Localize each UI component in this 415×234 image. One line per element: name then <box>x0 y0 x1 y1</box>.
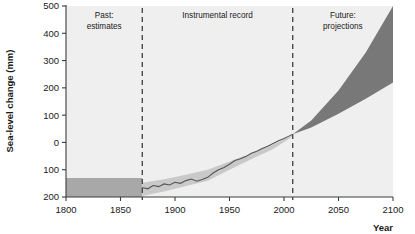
zone-label-instrumental-record: Instrumental record <box>182 11 253 20</box>
x-tick-label: 1850 <box>110 204 131 215</box>
x-tick-label: 2100 <box>382 204 403 215</box>
x-axis-ticks: 1800185019001950200020502100 <box>55 197 403 215</box>
x-axis-title: Year <box>373 222 393 233</box>
y-tick-label: 100 <box>43 110 59 121</box>
y-tick-label: 500 <box>43 0 59 11</box>
y-tick-label: 100 <box>43 164 59 175</box>
x-tick-label: 1900 <box>164 204 185 215</box>
y-tick-label: 300 <box>43 55 59 66</box>
y-axis-ticks: 5004003002001000100200 <box>43 0 66 202</box>
y-axis-title: Sea-level change (mm) <box>4 50 15 153</box>
x-tick-label: 1800 <box>55 204 76 215</box>
x-tick-label: 2000 <box>273 204 294 215</box>
past-estimates-band <box>66 178 142 197</box>
y-tick-label: 400 <box>43 28 59 39</box>
x-tick-label: 2050 <box>328 204 349 215</box>
chart-canvas: 5004003002001000100200 18001850190019502… <box>0 0 415 234</box>
y-tick-label: 200 <box>43 191 59 202</box>
y-tick-label: 0 <box>54 137 59 148</box>
x-tick-label: 1950 <box>219 204 240 215</box>
sea-level-chart-figure: 5004003002001000100200 18001850190019502… <box>0 0 415 234</box>
y-tick-label: 200 <box>43 82 59 93</box>
